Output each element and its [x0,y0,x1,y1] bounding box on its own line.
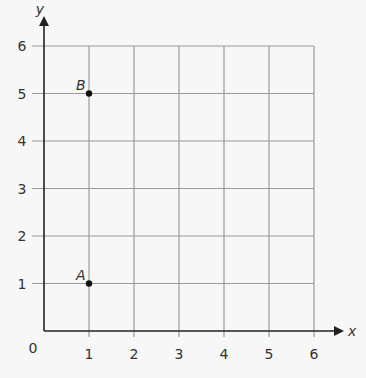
x-tick-label: 2 [130,346,139,362]
y-tick-label: 2 [18,228,27,244]
y-axis-label: y [35,1,45,17]
point-label-b: B [76,77,86,93]
x-axis-arrow-icon [334,326,344,336]
origin-label: 0 [29,340,38,356]
tick-labels: xy0123456123456 [18,1,357,362]
y-tick-label: 6 [18,38,27,54]
y-tick-label: 3 [18,181,27,197]
y-axis-arrow-icon [39,16,49,26]
y-tick-label: 5 [18,86,27,102]
x-axis-label: x [347,323,357,339]
axes [39,16,344,336]
x-tick-label: 1 [85,346,94,362]
coordinate-plane: xy0123456123456 AB [0,0,366,378]
y-tick-label: 1 [18,276,27,292]
y-tick-label: 4 [18,133,27,149]
data-points: AB [75,77,92,287]
x-tick-label: 5 [265,346,274,362]
grid-lines [32,46,314,337]
point-a [86,280,92,286]
x-tick-label: 4 [220,346,229,362]
point-label-a: A [75,267,86,283]
point-b [86,90,92,96]
x-tick-label: 3 [175,346,184,362]
x-tick-label: 6 [310,346,319,362]
